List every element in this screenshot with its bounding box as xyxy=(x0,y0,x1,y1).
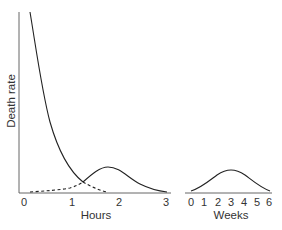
left-tick-1: 1 xyxy=(69,196,75,208)
right-tick-2: 2 xyxy=(215,196,221,208)
right-tick-1: 1 xyxy=(201,196,207,208)
left-x-axis-label: Hours xyxy=(81,209,112,221)
right-x-ticks: 0 1 2 3 4 5 6 xyxy=(188,196,272,208)
right-tick-0: 0 xyxy=(188,196,194,208)
y-axis-label: Death rate xyxy=(5,74,17,128)
left-panel-axes xyxy=(19,12,171,193)
left-x-ticks: 0 1 2 3 xyxy=(21,196,169,208)
left-tick-3: 3 xyxy=(163,196,169,208)
early-deaths-onset-dashed xyxy=(30,182,83,192)
left-tick-0: 0 xyxy=(21,196,27,208)
right-tick-4: 4 xyxy=(241,196,247,208)
left-tick-2: 2 xyxy=(116,196,122,208)
right-tick-6: 6 xyxy=(266,196,272,208)
death-rate-chart: Death rate 0 1 2 3 Hours 0 1 2 3 4 5 6 W… xyxy=(0,0,282,230)
right-x-axis-label: Weeks xyxy=(214,209,249,221)
right-tick-3: 3 xyxy=(228,196,234,208)
immediate-deaths-tail-dashed xyxy=(83,182,107,192)
right-tick-5: 5 xyxy=(254,196,260,208)
late-deaths-curve xyxy=(191,170,270,191)
immediate-deaths-curve xyxy=(30,12,83,182)
left-panel-curves xyxy=(30,12,167,192)
early-deaths-curve xyxy=(83,167,167,192)
